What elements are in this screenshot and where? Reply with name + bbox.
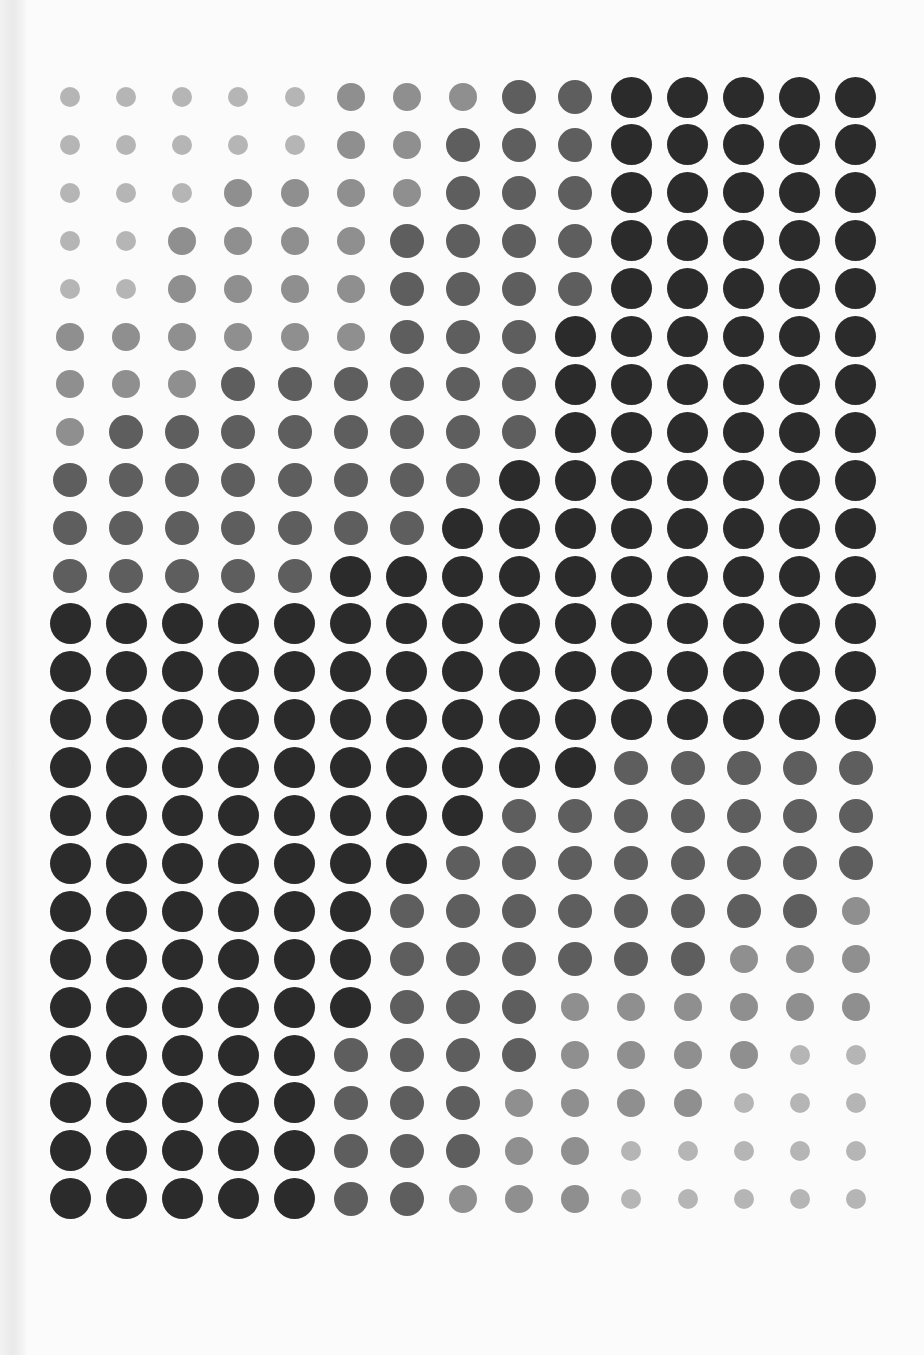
dot-medium-dark	[558, 128, 592, 162]
dot-medium-dark	[446, 272, 480, 306]
dot-large-black	[723, 460, 764, 501]
dot-large-black	[106, 843, 147, 884]
dot-large-black	[274, 1178, 315, 1219]
dot-large-black	[611, 364, 652, 405]
dot-medium-dark	[165, 511, 199, 545]
dot-small-light	[678, 1189, 698, 1209]
dot-medium-dark	[558, 176, 592, 210]
dot-light-medium	[505, 1089, 533, 1117]
dot-large-black	[50, 843, 91, 884]
dot-large-black	[779, 124, 820, 165]
dot-light-medium	[337, 323, 365, 351]
dot-large-black	[611, 220, 652, 261]
dot-small-light	[846, 1093, 866, 1113]
dot-medium-dark	[558, 846, 592, 880]
dot-large-black	[162, 651, 203, 692]
dot-medium-dark	[446, 1134, 480, 1168]
dot-large-black	[835, 412, 876, 453]
dot-small-light	[60, 135, 80, 155]
dot-large-black	[386, 556, 427, 597]
dot-medium-dark	[390, 1182, 424, 1216]
dot-medium-dark	[502, 846, 536, 880]
dot-large-black	[218, 1130, 259, 1171]
dot-light-medium	[56, 370, 84, 398]
dot-medium-dark	[671, 751, 705, 785]
dot-medium-dark	[671, 894, 705, 928]
dot-light-medium	[224, 323, 252, 351]
dot-large-black	[218, 843, 259, 884]
dot-small-light	[846, 1141, 866, 1161]
dot-large-black	[499, 603, 540, 644]
dot-light-medium	[56, 323, 84, 351]
dot-large-black	[330, 651, 371, 692]
dot-light-medium	[281, 323, 309, 351]
dot-medium-dark	[334, 1134, 368, 1168]
dot-light-medium	[561, 1041, 589, 1069]
dot-small-light	[228, 87, 248, 107]
dot-large-black	[106, 939, 147, 980]
dot-medium-dark	[221, 559, 255, 593]
dot-medium-dark	[221, 463, 255, 497]
dot-light-medium	[561, 993, 589, 1021]
dot-large-black	[330, 843, 371, 884]
dot-large-black	[499, 460, 540, 501]
dot-medium-dark	[614, 799, 648, 833]
dot-large-black	[50, 1082, 91, 1123]
dot-large-black	[835, 77, 876, 118]
dot-medium-dark	[614, 942, 648, 976]
dot-light-medium	[281, 275, 309, 303]
dot-small-light	[285, 87, 305, 107]
dot-medium-dark	[671, 942, 705, 976]
dot-large-black	[50, 795, 91, 836]
dot-large-black	[555, 364, 596, 405]
dot-large-black	[218, 1035, 259, 1076]
dot-large-black	[835, 316, 876, 357]
dot-medium-dark	[502, 128, 536, 162]
dot-medium-dark	[446, 224, 480, 258]
dot-medium-dark	[446, 1038, 480, 1072]
dot-large-black	[50, 1035, 91, 1076]
dot-medium-dark	[334, 511, 368, 545]
dot-medium-dark	[558, 224, 592, 258]
dot-large-black	[611, 268, 652, 309]
dot-large-black	[611, 316, 652, 357]
dot-large-black	[218, 1082, 259, 1123]
dot-light-medium	[337, 83, 365, 111]
dot-light-medium	[674, 993, 702, 1021]
dot-large-black	[442, 795, 483, 836]
dot-large-black	[667, 316, 708, 357]
dot-large-black	[667, 220, 708, 261]
dot-large-black	[330, 987, 371, 1028]
dot-medium-dark	[278, 463, 312, 497]
dot-light-medium	[281, 227, 309, 255]
dot-light-medium	[730, 1041, 758, 1069]
dot-large-black	[162, 1130, 203, 1171]
dot-large-black	[330, 699, 371, 740]
dot-large-black	[779, 220, 820, 261]
dot-medium-dark	[502, 176, 536, 210]
dot-medium-dark	[278, 415, 312, 449]
dot-large-black	[667, 412, 708, 453]
dot-medium-dark	[390, 415, 424, 449]
dot-light-medium	[617, 993, 645, 1021]
dot-large-black	[106, 603, 147, 644]
dot-medium-dark	[446, 415, 480, 449]
dot-large-black	[723, 364, 764, 405]
dot-light-medium	[449, 83, 477, 111]
dot-medium-dark	[727, 751, 761, 785]
dot-large-black	[779, 172, 820, 213]
dot-large-black	[835, 268, 876, 309]
dot-large-black	[274, 1082, 315, 1123]
dot-large-black	[162, 1082, 203, 1123]
dot-medium-dark	[109, 415, 143, 449]
dot-large-black	[555, 556, 596, 597]
dot-large-black	[499, 556, 540, 597]
dot-medium-dark	[839, 846, 873, 880]
dot-large-black	[499, 747, 540, 788]
dot-medium-dark	[390, 367, 424, 401]
dot-large-black	[835, 603, 876, 644]
dot-large-black	[667, 124, 708, 165]
dot-large-black	[611, 77, 652, 118]
dot-large-black	[386, 651, 427, 692]
dot-large-black	[50, 891, 91, 932]
